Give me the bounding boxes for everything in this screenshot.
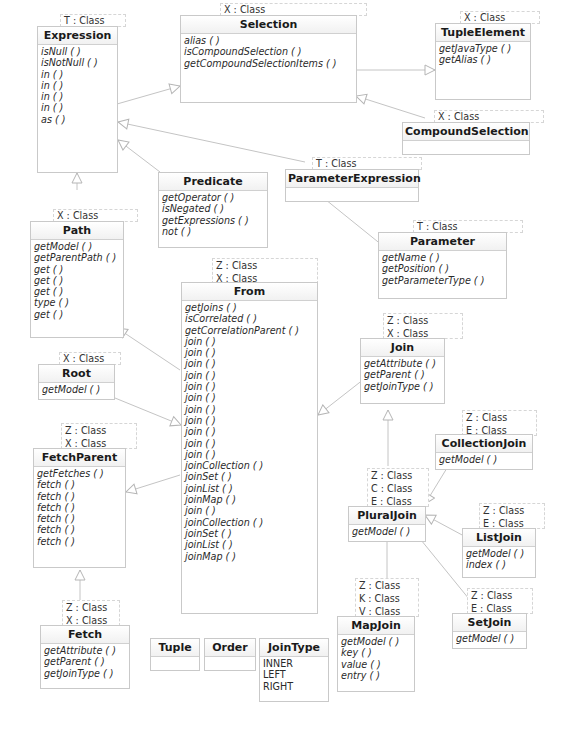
- operation: value ( ): [341, 659, 411, 670]
- operation: join ( ): [185, 505, 314, 516]
- operation: join ( ): [185, 336, 314, 347]
- operation: getJoinType ( ): [44, 668, 126, 679]
- operation: get ( ): [34, 264, 120, 275]
- operations: getModel ( ) key ( ) value ( ) entry ( ): [338, 635, 414, 683]
- operation: joinList ( ): [185, 483, 314, 494]
- class-plural-join[interactable]: PluralJoin getModel ( ): [348, 506, 426, 542]
- operation: getCompoundSelectionItems ( ): [184, 58, 353, 69]
- operations: [205, 657, 255, 670]
- operations: getModel ( ): [453, 632, 526, 646]
- enum-join-type[interactable]: JoinType INNER LEFT RIGHT: [259, 638, 329, 702]
- class-root[interactable]: Root getModel ( ): [38, 364, 115, 400]
- class-compound-selection[interactable]: CompoundSelection: [402, 122, 530, 155]
- operation: getParentPath ( ): [34, 252, 120, 263]
- class-tuple[interactable]: Tuple: [150, 638, 200, 671]
- operations: getJavaType ( ) getAlias ( ): [436, 42, 530, 68]
- operation: getAttribute ( ): [44, 645, 126, 656]
- operation: getParent ( ): [364, 369, 441, 380]
- plural-join-type-params: Z : Class C : Class E : Class: [367, 468, 429, 507]
- operation: in ( ): [41, 91, 114, 102]
- operation: get ( ): [34, 275, 120, 286]
- class-name: Path: [31, 222, 123, 240]
- class-name: MapJoin: [338, 617, 414, 635]
- operation: key ( ): [341, 647, 411, 658]
- class-name: Root: [39, 365, 114, 383]
- operation: in ( ): [41, 69, 114, 80]
- operation: isNotNull ( ): [41, 57, 114, 68]
- operation: fetch ( ): [37, 536, 122, 547]
- class-set-join[interactable]: SetJoin getModel ( ): [452, 613, 527, 649]
- operation: isNull ( ): [41, 46, 114, 57]
- operation: getParameterType ( ): [382, 275, 503, 286]
- operation: joinCollection ( ): [185, 460, 314, 471]
- operations: getModel ( ) getParentPath ( ) get ( ) g…: [31, 240, 123, 322]
- class-path[interactable]: Path getModel ( ) getParentPath ( ) get …: [30, 221, 124, 338]
- operation: getModel ( ): [439, 454, 529, 465]
- operation: join ( ): [185, 370, 314, 381]
- type-param: Z : Class: [359, 580, 400, 591]
- class-parameter[interactable]: Parameter getName ( ) getPosition ( ) ge…: [378, 232, 507, 299]
- operations: getFetches ( ) fetch ( ) fetch ( ) fetch…: [34, 467, 125, 549]
- class-collection-join[interactable]: CollectionJoin getModel ( ): [435, 434, 533, 470]
- operation: getParent ( ): [44, 656, 126, 667]
- class-predicate[interactable]: Predicate getOperator ( ) isNegated ( ) …: [158, 172, 268, 248]
- operation: joinCollection ( ): [185, 517, 314, 528]
- operation: join ( ): [185, 426, 314, 437]
- operation: isCompoundSelection ( ): [184, 46, 353, 57]
- class-name: ParameterExpression: [286, 170, 418, 188]
- operation: join ( ): [185, 347, 314, 358]
- list-join-type-params: Z : Class E : Class: [479, 503, 545, 529]
- operation: getJavaType ( ): [439, 43, 527, 54]
- type-param: Z : Class: [65, 425, 106, 436]
- class-parameter-expression[interactable]: ParameterExpression: [285, 169, 419, 202]
- operation: joinMap ( ): [185, 494, 314, 505]
- type-param: K : Class: [359, 593, 400, 604]
- join-type-params: Z : Class X : Class: [383, 313, 463, 339]
- operation: fetch ( ): [37, 524, 122, 535]
- operation: not ( ): [162, 226, 264, 237]
- class-fetch-parent[interactable]: FetchParent getFetches ( ) fetch ( ) fet…: [33, 448, 126, 568]
- class-expression[interactable]: Expression isNull ( ) isNotNull ( ) in (…: [37, 26, 118, 173]
- operation: in ( ): [41, 102, 114, 113]
- class-name: TupleElement: [436, 24, 530, 42]
- operation: fetch ( ): [37, 513, 122, 524]
- operation: getModel ( ): [466, 548, 532, 559]
- operation: join ( ): [185, 438, 314, 449]
- class-selection[interactable]: Selection alias ( ) isCompoundSelection …: [180, 15, 357, 103]
- class-list-join[interactable]: ListJoin getModel ( ) index ( ): [462, 528, 536, 578]
- type-param: Z : Class: [371, 470, 412, 481]
- uml-class-diagram: T : Class Expression isNull ( ) isNotNul…: [0, 0, 574, 731]
- class-join[interactable]: Join getAttribute ( ) getParent ( ) getJ…: [360, 338, 445, 404]
- class-order[interactable]: Order: [204, 638, 256, 671]
- operation: fetch ( ): [37, 491, 122, 502]
- operation: join ( ): [185, 404, 314, 415]
- operation: getAlias ( ): [439, 54, 527, 65]
- operations: [403, 141, 529, 154]
- type-param: C : Class: [371, 483, 412, 494]
- fetch-type-params: Z : Class X : Class: [62, 600, 120, 626]
- class-name: ListJoin: [463, 529, 535, 547]
- class-fetch[interactable]: Fetch getAttribute ( ) getParent ( ) get…: [40, 625, 130, 689]
- operations: getJoins ( ) isCorrelated ( ) getCorrela…: [182, 301, 317, 564]
- operation: join ( ): [185, 449, 314, 460]
- operation: getExpressions ( ): [162, 215, 264, 226]
- operation: get ( ): [34, 286, 120, 297]
- enum-literal: INNER: [263, 658, 325, 669]
- class-name: Order: [205, 639, 255, 657]
- operations: getName ( ) getPosition ( ) getParameter…: [379, 251, 506, 288]
- operations: getModel ( ) index ( ): [463, 547, 535, 573]
- class-name: CompoundSelection: [403, 123, 529, 141]
- type-param: Z : Class: [466, 412, 507, 423]
- class-tuple-element[interactable]: TupleElement getJavaType ( ) getAlias ( …: [435, 23, 531, 100]
- class-map-join[interactable]: MapJoin getModel ( ) key ( ) value ( ) e…: [337, 616, 415, 692]
- operation: joinSet ( ): [185, 528, 314, 539]
- type-param: Z : Class: [471, 590, 512, 601]
- operation: join ( ): [185, 358, 314, 369]
- class-name: Join: [361, 339, 444, 357]
- class-name: PluralJoin: [349, 507, 425, 525]
- operation: getOperator ( ): [162, 192, 264, 203]
- class-from[interactable]: From getJoins ( ) isCorrelated ( ) getCo…: [181, 282, 318, 614]
- operations: getModel ( ): [39, 383, 114, 397]
- operation: joinSet ( ): [185, 471, 314, 482]
- class-name: SetJoin: [453, 614, 526, 632]
